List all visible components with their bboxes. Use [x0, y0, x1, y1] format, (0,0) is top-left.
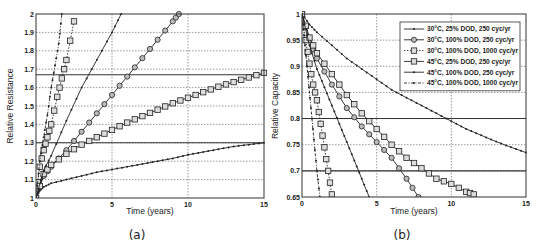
dot-marker [126, 166, 128, 168]
legend-label: 30°C, 25% DOD, 250 cyc/yr [427, 25, 511, 33]
series-1 [35, 142, 265, 199]
dot-marker [222, 147, 224, 149]
dot-marker [450, 120, 452, 122]
y-tick-label: 0.85 [286, 89, 300, 96]
dot-marker [465, 128, 467, 130]
dot-marker [117, 19, 119, 21]
dot-marker [58, 42, 60, 44]
square-marker [155, 107, 160, 112]
square-marker [49, 122, 54, 127]
dot-marker [45, 185, 47, 187]
dot-marker [70, 109, 72, 111]
square-marker [318, 121, 323, 126]
y-tick-label: 1.8 [24, 47, 34, 54]
square-marker [87, 138, 92, 143]
dot-marker [217, 148, 219, 150]
dot-marker [326, 92, 328, 94]
square-marker [49, 162, 54, 167]
dot-marker [430, 110, 432, 112]
square-marker [311, 43, 316, 48]
dot-marker [197, 152, 199, 154]
dot-marker [321, 36, 323, 38]
dot-marker [44, 129, 46, 131]
dot-marker [310, 107, 312, 109]
circle-marker [163, 28, 168, 33]
plot-a-caption: (a) [129, 228, 146, 242]
dot-marker [207, 150, 209, 152]
square-marker [327, 180, 332, 185]
dot-marker [313, 60, 315, 62]
dot-marker [81, 87, 83, 89]
dot-marker [172, 157, 174, 159]
square-marker [71, 19, 76, 24]
dot-marker [361, 178, 363, 180]
circle-marker [322, 69, 327, 74]
dot-marker [91, 172, 93, 174]
dot-marker [152, 161, 154, 163]
y-tick-label: 0.8 [290, 115, 300, 122]
dot-marker [406, 97, 408, 99]
dot-marker [38, 188, 40, 190]
dot-marker [48, 160, 50, 162]
dot-marker [60, 23, 62, 25]
dot-marker [328, 98, 330, 100]
y-tick-label: 1.7 [24, 66, 34, 73]
circle-marker [155, 37, 160, 42]
square-marker [396, 149, 401, 154]
x-tick-label: 15 [522, 200, 530, 207]
circle-marker [140, 56, 145, 61]
dot-marker [60, 131, 62, 133]
x-tick-label: 5 [110, 201, 114, 208]
legend: 30°C, 25% DOD, 250 cyc/yr30°C, 100% DOD,… [400, 22, 520, 91]
square-marker [314, 98, 319, 103]
dot-marker [323, 86, 325, 88]
square-marker [254, 72, 259, 77]
dot-marker [81, 175, 83, 177]
dot-marker [65, 179, 67, 181]
dot-marker [425, 107, 427, 109]
square-marker [309, 71, 314, 76]
circle-marker [389, 155, 394, 160]
series-4 [33, 70, 266, 201]
dot-marker [331, 44, 333, 46]
dot-marker [43, 169, 45, 171]
dot-marker [46, 114, 48, 116]
x-tick-label: 5 [375, 200, 379, 207]
plot-a-ylabel: Relative Resistance [5, 68, 15, 143]
dot-marker [333, 111, 335, 113]
dot-marker [55, 143, 57, 145]
dot-marker [304, 44, 306, 46]
dot-marker [413, 28, 415, 30]
legend-label: 30°C, 100% DOD, 1000 cyc/yr [427, 47, 518, 55]
dot-marker [36, 185, 38, 187]
square-marker [316, 109, 321, 114]
dot-marker [505, 144, 507, 146]
square-marker [47, 128, 52, 133]
dot-marker [86, 77, 88, 79]
square-marker [132, 117, 137, 122]
square-marker [449, 181, 454, 186]
dot-marker [314, 149, 316, 151]
square-marker [434, 176, 439, 181]
y-tick-label: 0.9 [290, 63, 300, 70]
dot-marker [490, 138, 492, 140]
dot-marker [356, 166, 358, 168]
square-marker [45, 135, 50, 140]
square-marker [322, 145, 327, 150]
dot-marker [116, 168, 118, 170]
square-marker [68, 38, 73, 43]
dot-marker [41, 144, 43, 146]
dot-marker [343, 135, 345, 137]
square-marker [441, 179, 446, 184]
dot-marker [316, 170, 318, 172]
circle-marker [329, 82, 334, 87]
square-marker [56, 157, 61, 162]
square-marker [311, 82, 316, 87]
dot-marker [401, 94, 403, 96]
dot-marker [316, 31, 318, 33]
dot-marker [49, 96, 51, 98]
square-marker [456, 185, 461, 190]
circle-marker [314, 56, 319, 61]
dot-marker [313, 29, 315, 31]
dot-marker [101, 170, 103, 172]
